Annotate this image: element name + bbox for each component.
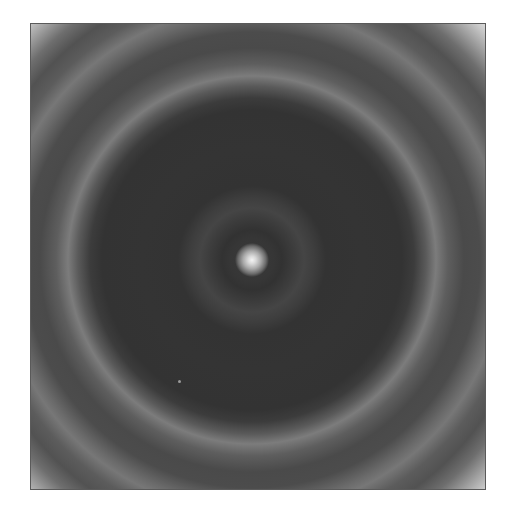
bright-speck (178, 380, 181, 383)
canvas (0, 0, 514, 516)
ring-pattern-image (30, 23, 486, 490)
